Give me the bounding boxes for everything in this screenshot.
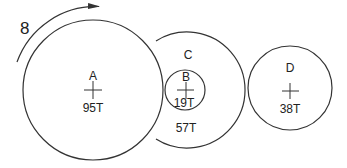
gear-b-label: B bbox=[182, 70, 190, 84]
gear-d-label: D bbox=[286, 61, 295, 75]
rotation-speed-label: 8 bbox=[20, 19, 29, 38]
gear-b-teeth: 19T bbox=[174, 96, 195, 110]
gear-train-diagram: 8 A 95T C 57T B 19T D 38T bbox=[0, 0, 347, 168]
gear-a-teeth: 95T bbox=[83, 101, 104, 115]
gear-d: D 38T bbox=[248, 46, 332, 130]
gear-d-teeth: 38T bbox=[280, 102, 301, 116]
gear-a: A 95T bbox=[23, 20, 163, 160]
gear-c-label: C bbox=[184, 48, 193, 62]
gear-a-label: A bbox=[89, 69, 97, 83]
gear-b: B 19T bbox=[165, 70, 205, 110]
gear-c-teeth: 57T bbox=[176, 121, 197, 135]
